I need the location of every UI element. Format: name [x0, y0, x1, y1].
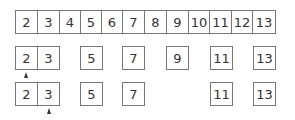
number-cell-full-list: 5 [80, 10, 102, 34]
number-cell-after-removing-multiples-of-3: 13 [253, 82, 276, 106]
number-cell-after-removing-multiples-of-2: 7 [122, 46, 145, 70]
number-cell-after-removing-multiples-of-3: 2 [15, 82, 38, 106]
number-cell-after-removing-multiples-of-2: 5 [80, 46, 103, 70]
number-cell-full-list: 10 [188, 10, 210, 34]
number-cell-full-list: 4 [59, 10, 81, 34]
number-cell-after-removing-multiples-of-2: 2 [15, 46, 38, 70]
number-cell-full-list: 8 [144, 10, 167, 34]
number-cell-full-list: 6 [101, 10, 123, 34]
number-cell-after-removing-multiples-of-3: 3 [37, 82, 60, 106]
number-cell-full-list: 11 [209, 10, 232, 34]
number-cell-full-list: 3 [37, 10, 60, 34]
number-cell-full-list: 9 [166, 10, 189, 34]
pointer-arrow-icon [47, 108, 51, 114]
pointer-arrow-icon [24, 72, 28, 78]
number-cell-after-removing-multiples-of-2: 13 [253, 46, 276, 70]
number-cell-full-list: 7 [122, 10, 145, 34]
number-cell-full-list: 2 [15, 10, 38, 34]
number-cell-full-list: 13 [252, 10, 276, 34]
number-cell-full-list: 12 [231, 10, 253, 34]
number-cell-after-removing-multiples-of-3: 5 [80, 82, 103, 106]
number-cell-after-removing-multiples-of-3: 11 [210, 82, 233, 106]
number-cell-after-removing-multiples-of-3: 7 [122, 82, 145, 106]
number-cell-after-removing-multiples-of-2: 11 [210, 46, 233, 70]
number-cell-after-removing-multiples-of-2: 9 [166, 46, 189, 70]
number-cell-after-removing-multiples-of-2: 3 [37, 46, 60, 70]
